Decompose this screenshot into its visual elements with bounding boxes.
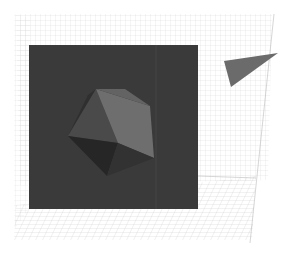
- figure-caption: [14, 245, 284, 253]
- left-wall-grid: [14, 14, 30, 230]
- rendered-scene: [0, 0, 288, 253]
